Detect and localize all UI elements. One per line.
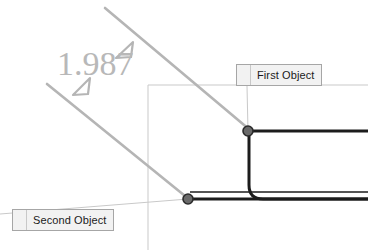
drag-grip-dots-icon[interactable]	[13, 210, 27, 230]
object-profile-geometry	[188, 131, 368, 199]
first-object-leader-line	[247, 86, 248, 131]
second-object-label-text: Second Object	[27, 210, 113, 230]
cad-drawing-canvas[interactable]: 1.987 First Object Second Object	[0, 0, 368, 250]
dimension-value-text[interactable]: 1.987	[57, 47, 134, 81]
first-object-label[interactable]: First Object	[236, 64, 322, 86]
first-object-fillet-edge	[249, 131, 368, 199]
dimension-line-lower	[47, 84, 190, 200]
first-object-label-text: First Object	[251, 65, 321, 85]
second-object-label[interactable]: Second Object	[12, 209, 114, 231]
construction-frame-path	[148, 85, 368, 250]
drag-grip-dots-icon[interactable]	[237, 65, 251, 85]
first-object-node-marker[interactable]	[243, 126, 253, 136]
second-object-node-marker[interactable]	[183, 194, 193, 204]
